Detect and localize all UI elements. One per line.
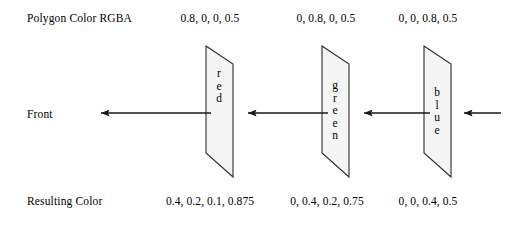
plane-label-green: green [326, 79, 344, 142]
plane-label-letter: e [428, 124, 446, 137]
plane-label-letter: e [326, 117, 344, 130]
plane-label-letter: n [326, 129, 344, 142]
resulting-color-value-green: 0, 0.4, 0.2, 0.75 [282, 196, 372, 208]
row-label-resulting-color: Resulting Color [27, 196, 102, 208]
polygon-color-value-blue: 0, 0, 0.8, 0.5 [383, 13, 473, 25]
plane-label-letter: r [326, 92, 344, 105]
resulting-color-value-blue: 0, 0, 0.4, 0.5 [385, 196, 471, 208]
plane-label-letter: b [428, 86, 446, 99]
row-label-front: Front [27, 109, 53, 121]
plane-label-blue: blue [428, 86, 446, 136]
row-label-polygon-color: Polygon Color RGBA [27, 13, 132, 25]
plane-label-letter: g [326, 79, 344, 92]
plane-label-letter: u [428, 111, 446, 124]
plane-red [206, 46, 233, 177]
polygon-color-value-red: 0.8, 0, 0, 0.5 [165, 13, 255, 25]
plane-label-letter: d [210, 92, 228, 105]
plane-label-letter: l [428, 99, 446, 112]
plane-label-letter: e [210, 80, 228, 93]
plane-label-letter: e [326, 104, 344, 117]
resulting-color-value-red: 0.4, 0.2, 0.1, 0.875 [157, 196, 263, 208]
plane-label-red: red [210, 67, 228, 105]
polygon-color-value-green: 0, 0.8, 0, 0.5 [281, 13, 371, 25]
blending-order-diagram: Polygon Color RGBA Front Resulting Color… [0, 0, 505, 231]
plane-label-letter: r [210, 67, 228, 80]
